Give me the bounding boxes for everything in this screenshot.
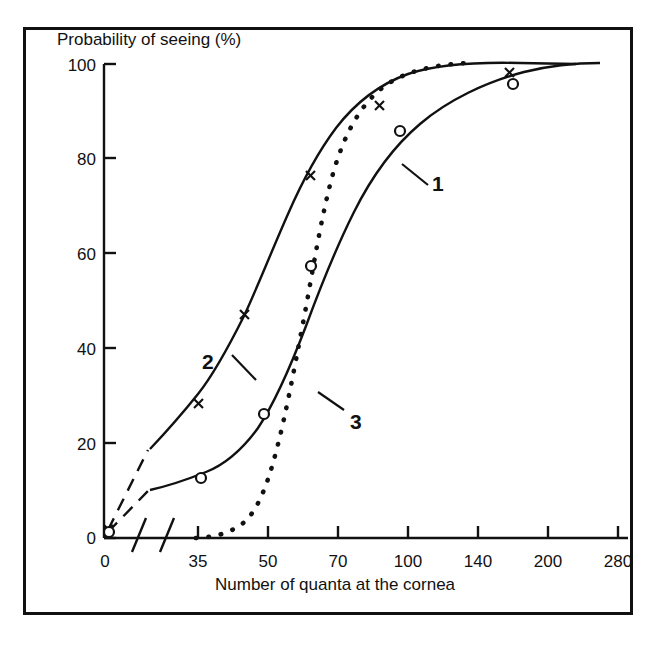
- leader-line-2: [232, 355, 256, 380]
- series-2-markers: [104, 68, 514, 534]
- plot-svg: [0, 0, 665, 658]
- axis-break-marks: [132, 518, 174, 552]
- series-1-line: [150, 63, 600, 490]
- y-tick-marks: [104, 64, 116, 538]
- figure-container: Probability of seeing (%) Number of quan…: [0, 0, 665, 658]
- leader-line-3: [318, 392, 344, 410]
- x-tick-marks: [105, 526, 618, 538]
- series-1-markers: [104, 79, 518, 537]
- series-2-line: [150, 63, 576, 449]
- axes-group: [104, 64, 628, 538]
- leader-line-1: [402, 164, 428, 185]
- series-3-line: [196, 63, 470, 538]
- series-2-dashed-segment: [108, 450, 148, 530]
- leader-lines: [232, 164, 428, 410]
